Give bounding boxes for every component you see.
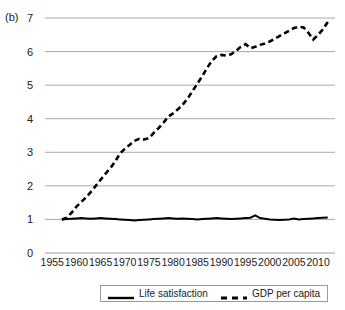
legend-swatch-solid-icon	[108, 289, 134, 299]
x-tick-label: 1975	[137, 256, 160, 268]
chart-legend: Life satisfactionGDP per capita	[100, 285, 328, 302]
x-tick-label: 1960	[65, 256, 88, 268]
x-tick-label: 2010	[306, 256, 329, 268]
x-tick-label: 1955	[41, 256, 64, 268]
plot-svg	[45, 18, 335, 253]
legend-label: GDP per capita	[252, 289, 320, 299]
x-tick-label: 2000	[258, 256, 281, 268]
y-tick-label: 1	[27, 214, 33, 225]
y-tick-label: 4	[27, 113, 33, 124]
x-tick-label: 1965	[89, 256, 112, 268]
y-tick-label: 0	[27, 248, 33, 259]
legend-entry: GDP per capita	[221, 289, 320, 299]
plot-area	[45, 18, 335, 253]
x-tick-label: 2005	[282, 256, 305, 268]
x-tick-label: 1985	[186, 256, 209, 268]
y-tick-label: 3	[27, 147, 33, 158]
x-axis-tick-labels: 1955196019651970197519801985199019952000…	[45, 256, 335, 272]
x-tick-label: 1980	[161, 256, 184, 268]
x-tick-label: 1995	[234, 256, 257, 268]
legend-entry: Life satisfaction	[108, 289, 208, 299]
legend-label: Life satisfaction	[139, 289, 208, 299]
legend-swatch-dashed-icon	[221, 289, 247, 299]
y-tick-label: 5	[27, 80, 33, 91]
y-tick-label: 2	[27, 180, 33, 191]
y-tick-label: 7	[27, 13, 33, 24]
chart-figure: (b) 01234567 195519601965197019751980198…	[0, 0, 345, 310]
x-tick-label: 1990	[210, 256, 233, 268]
y-axis-tick-labels: 01234567	[0, 18, 40, 253]
y-tick-label: 6	[27, 46, 33, 57]
x-tick-label: 1970	[113, 256, 136, 268]
